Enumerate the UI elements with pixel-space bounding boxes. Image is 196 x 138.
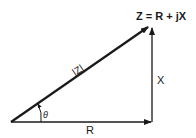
resistance-label: R (86, 124, 94, 136)
equation-label: Z = R + jX (136, 10, 187, 22)
angle-arc-icon (38, 104, 41, 122)
hypotenuse-label: |Z| (70, 62, 86, 77)
reactance-label: X (157, 74, 165, 86)
impedance-triangle-diagram: Z = R + jX |Z| X R θ (0, 0, 196, 138)
angle-label: θ (43, 110, 48, 120)
